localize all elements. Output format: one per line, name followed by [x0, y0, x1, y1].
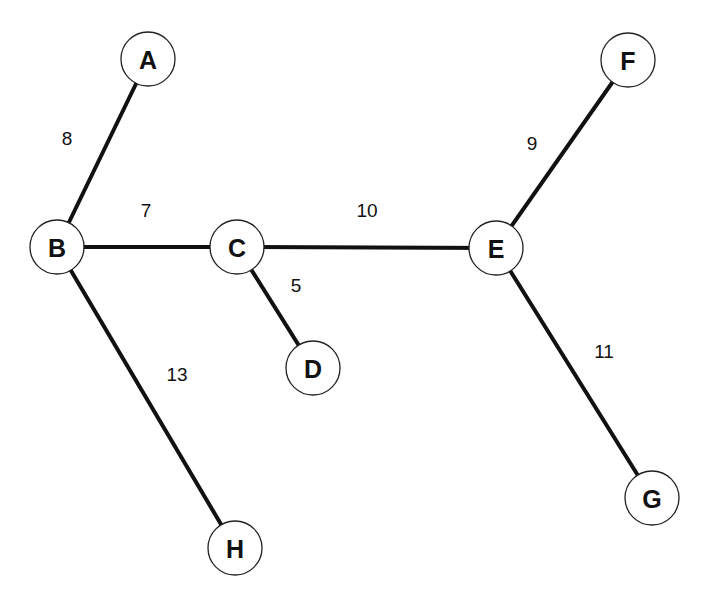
node-a: A [121, 32, 175, 86]
graph-canvas: 8710591113 ABCDEFGH [0, 0, 709, 601]
edge-weight-a-b: 8 [62, 128, 73, 149]
edge-weight-e-g: 11 [594, 341, 614, 362]
edge-e-g [496, 248, 652, 498]
edge-e-f [496, 60, 628, 248]
node-label: E [488, 235, 505, 263]
node-g: G [625, 471, 679, 525]
node-label: G [642, 485, 661, 513]
edges-layer [57, 59, 652, 548]
node-b: B [30, 220, 84, 274]
edge-weight-e-f: 9 [527, 133, 538, 154]
edge-weight-c-d: 5 [291, 275, 302, 296]
node-c: C [210, 220, 264, 274]
node-label: C [228, 234, 246, 262]
node-f: F [601, 33, 655, 87]
edge-weights-layer: 8710591113 [62, 128, 614, 385]
edge-b-h [57, 247, 235, 548]
nodes-layer: ABCDEFGH [30, 32, 679, 575]
node-label: F [620, 47, 635, 75]
node-d: D [286, 341, 340, 395]
node-label: A [139, 46, 157, 74]
edge-a-b [57, 59, 148, 247]
edge-c-e [237, 247, 496, 248]
edge-weight-b-c: 7 [141, 200, 152, 221]
node-label: H [226, 535, 244, 563]
edge-weight-c-e: 10 [356, 200, 377, 221]
node-h: H [208, 521, 262, 575]
edge-weight-b-h: 13 [166, 364, 187, 385]
node-label: B [48, 234, 66, 262]
node-e: E [469, 221, 523, 275]
node-label: D [304, 355, 322, 383]
